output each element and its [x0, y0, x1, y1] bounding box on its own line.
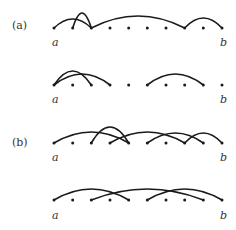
point [109, 199, 112, 202]
panel-label-a: (a) [12, 19, 27, 32]
endpoint-label-b-row1: b [220, 36, 227, 49]
point [90, 27, 93, 30]
point [53, 27, 56, 30]
arc [147, 74, 203, 85]
point [109, 84, 112, 87]
point [71, 84, 74, 87]
endpoint-label-a-row2: a [52, 93, 59, 106]
endpoint-label-b-row4: b [220, 209, 227, 222]
point [202, 27, 205, 30]
point [165, 142, 168, 145]
endpoint-label-a-row1: a [52, 36, 59, 49]
point [202, 199, 205, 202]
point [202, 142, 205, 145]
point [165, 27, 168, 30]
point [221, 199, 224, 202]
arc [185, 133, 222, 143]
point [127, 84, 130, 87]
point [146, 199, 149, 202]
point [53, 84, 56, 87]
point [71, 27, 74, 30]
endpoint-label-a-row4: a [52, 209, 59, 222]
point [183, 199, 186, 202]
panel-label-b: (b) [12, 136, 28, 149]
arc [54, 132, 129, 143]
point [183, 84, 186, 87]
point [183, 142, 186, 145]
point [146, 84, 149, 87]
endpoint-label-b-row2: b [220, 93, 227, 106]
point [127, 142, 130, 145]
arc-diagram: (a) (b) a b a b a b a b [0, 0, 236, 230]
point [90, 142, 93, 145]
point [165, 84, 168, 87]
point [109, 142, 112, 145]
endpoint-label-a-row3: a [52, 151, 59, 164]
point [90, 199, 93, 202]
arc [54, 71, 91, 85]
point [127, 27, 130, 30]
point [71, 142, 74, 145]
point [221, 84, 224, 87]
point [221, 142, 224, 145]
point [146, 142, 149, 145]
arc [91, 16, 184, 28]
point [221, 27, 224, 30]
point [146, 27, 149, 30]
point [202, 84, 205, 87]
point [53, 199, 56, 202]
row-a-2 [53, 71, 224, 87]
arc [54, 189, 129, 200]
point [53, 142, 56, 145]
row-a-1 [53, 13, 224, 30]
endpoint-label-b-row3: b [220, 151, 227, 164]
arc [185, 18, 222, 28]
point [90, 84, 93, 87]
point [127, 199, 130, 202]
point [109, 27, 112, 30]
row-b-2 [53, 189, 224, 202]
point [71, 199, 74, 202]
row-b-1 [53, 127, 224, 145]
point [183, 27, 186, 30]
point [165, 199, 168, 202]
